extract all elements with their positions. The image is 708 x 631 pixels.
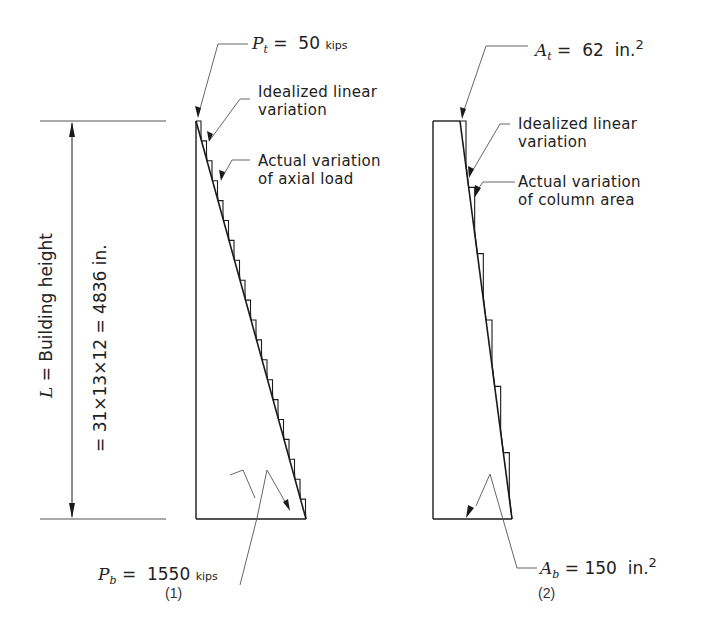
top-area-label: At = 62 in.2	[535, 37, 644, 63]
building-height-formula: = 31×13×12 = 4836 in.	[90, 244, 110, 452]
leader-arrow-icon	[219, 170, 225, 181]
bottom-load-label: Pb = 1550 kips	[98, 564, 218, 587]
top-load-label: Pt = 50 kips	[252, 33, 348, 56]
leader-arrow-icon	[468, 166, 474, 178]
arrow-down-icon	[69, 503, 75, 518]
leader-arrow-icon	[460, 107, 466, 119]
arrow-up-icon	[69, 122, 75, 137]
caption-1: (1)	[165, 585, 182, 601]
bottom-area-label: Ab = 150 in.2	[540, 555, 657, 581]
actual-variation-label-1: Actual variationof axial load	[258, 152, 381, 188]
building-height-label: L = Building height	[36, 233, 56, 398]
column-area-diagram	[433, 121, 512, 519]
idealized-variation-label-1: Idealized linearvariation	[258, 83, 377, 119]
leader-arrow-icon	[195, 106, 201, 118]
idealized-variation-label-2: Idealized linearvariation	[518, 115, 637, 151]
leader-arrow-icon	[466, 505, 474, 518]
actual-variation-label-2: Actual variationof column area	[518, 173, 641, 209]
caption-2: (2)	[538, 585, 555, 601]
